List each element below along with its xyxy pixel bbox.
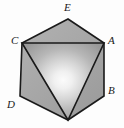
vertex-label-b: B	[108, 85, 115, 96]
hexagon-diagram-svg	[0, 0, 124, 128]
vertex-label-d: D	[7, 99, 15, 110]
vertex-label-e: E	[64, 2, 71, 13]
vertex-label-a: A	[108, 35, 115, 46]
vertex-label-c: C	[11, 35, 18, 46]
geometry-figure: E C A D B	[0, 0, 124, 128]
